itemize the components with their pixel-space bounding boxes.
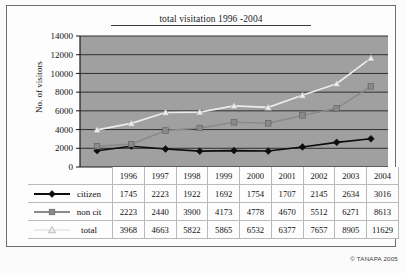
y-tick-label: 14000 [51,31,74,41]
y-tick-label: 8000 [55,87,74,97]
cell-citizen-1999: 1692 [208,185,240,203]
column-header-1997: 1997 [144,167,176,185]
column-header-2001: 2001 [271,167,303,185]
data-point-square [197,125,203,131]
chart-frame: total visitation 1996 -2004 No. of visit… [6,5,396,247]
legend-marker-triangle [32,224,72,236]
plot-area: 02000400060008000100001200014000 [29,28,389,174]
chart-title: total visitation 1996 -2004 [111,14,311,26]
table-row: total39684663582258656532637776578905116… [28,221,398,239]
cell-citizen-1998: 1922 [176,185,208,203]
cell-citizen-2002: 2145 [303,185,335,203]
cell-non-cit-1998: 3900 [176,203,208,221]
cell-non-cit-2000: 4778 [240,203,272,221]
copyright-notice: © TANAPA 2005 [350,255,398,262]
legend-cell-citizen: citizen [28,185,113,203]
y-tick-label: 10000 [51,69,74,79]
y-tick-label: 12000 [51,50,74,60]
legend-cell-non-cit: non cit [28,203,113,221]
cell-non-cit-2003: 6271 [335,203,367,221]
data-point-square [49,209,55,215]
cell-total-1998: 5822 [176,221,208,239]
table-corner-cell [28,167,113,185]
table-header-row: 199619971998199920002001200220032004 [28,167,398,185]
column-header-1998: 1998 [176,167,208,185]
data-point-square [129,141,135,147]
cell-citizen-1996: 1745 [113,185,145,203]
cell-citizen-2004: 3016 [367,185,399,203]
cell-citizen-2001: 1707 [271,185,303,203]
legend-cell-total: total [28,221,113,239]
column-header-2000: 2000 [240,167,272,185]
column-header-2003: 2003 [335,167,367,185]
column-header-2002: 2002 [303,167,335,185]
legend-label: non cit [72,207,112,217]
cell-total-1999: 5865 [208,221,240,239]
cell-non-cit-1996: 2223 [113,203,145,221]
data-point-square [368,84,374,90]
y-tick-label: 4000 [55,125,74,135]
cell-non-cit-1999: 4173 [208,203,240,221]
cell-total-2001: 6377 [271,221,303,239]
data-point-diamond [49,190,56,197]
legend-label: citizen [72,189,112,199]
data-point-square [334,106,340,112]
cell-citizen-1997: 2223 [144,185,176,203]
cell-non-cit-2001: 4670 [271,203,303,221]
cell-non-cit-2002: 5512 [303,203,335,221]
data-point-square [265,121,271,127]
data-point-square [94,143,100,149]
cell-total-2000: 6532 [240,221,272,239]
table-row: citizen174522231922169217541707214526343… [28,185,398,203]
cell-total-1996: 3968 [113,221,145,239]
cell-total-1997: 4663 [144,221,176,239]
cell-non-cit-1997: 2440 [144,203,176,221]
y-tick-label: 2000 [55,143,74,153]
column-header-1996: 1996 [113,167,145,185]
legend-marker-diamond [32,188,72,200]
cell-citizen-2003: 2634 [335,185,367,203]
data-table: 199619971998199920002001200220032004citi… [28,167,399,239]
column-header-1999: 1999 [208,167,240,185]
table-row: non cit222324403900417347784670551262718… [28,203,398,221]
y-tick-label: 6000 [55,106,74,116]
data-point-square [300,113,306,119]
cell-citizen-2000: 1754 [240,185,272,203]
legend-label: total [72,225,112,235]
legend-marker-square [32,206,72,218]
cell-non-cit-2004: 8613 [367,203,399,221]
cell-total-2004: 11629 [367,221,399,239]
data-point-square [163,128,169,134]
column-header-2004: 2004 [367,167,399,185]
cell-total-2003: 8905 [335,221,367,239]
cell-total-2002: 7657 [303,221,335,239]
line-chart-svg: 02000400060008000100001200014000 [29,28,389,174]
data-point-square [231,119,237,125]
chart-figure: total visitation 1996 -2004 No. of visit… [0,0,406,273]
